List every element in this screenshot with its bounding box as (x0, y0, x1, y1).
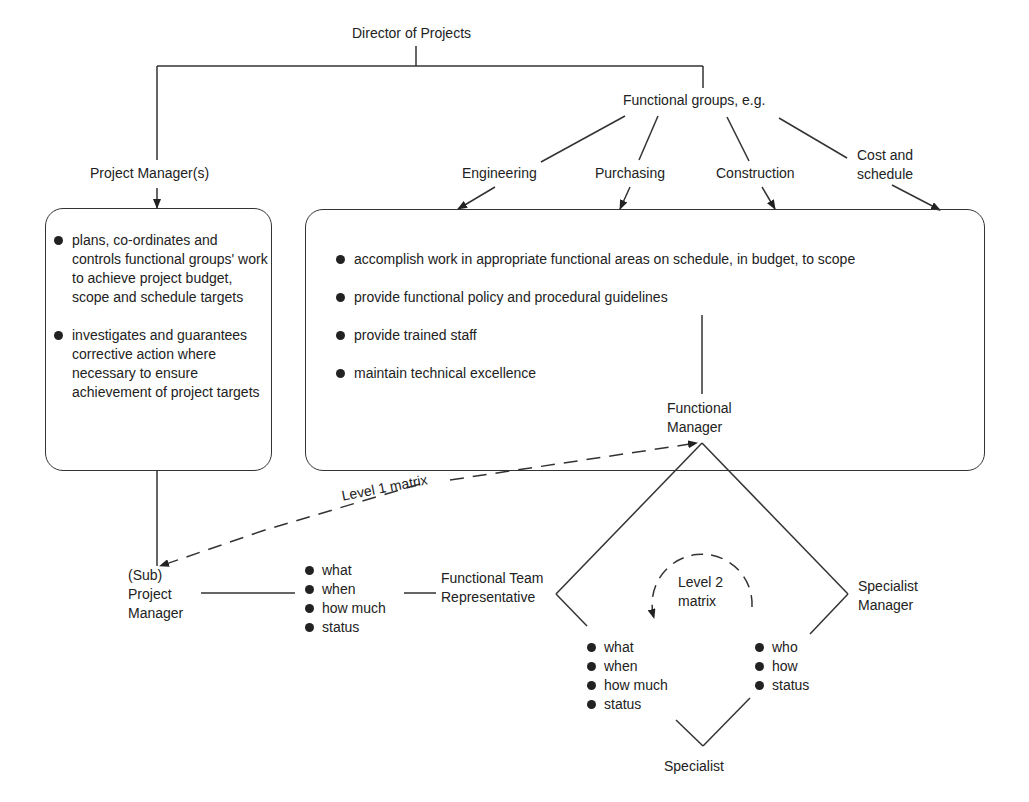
list-item: how much (303, 599, 386, 618)
list-item: how much (585, 676, 668, 695)
pm-to-rep-list: what when how much status (303, 561, 386, 637)
level-2-matrix-label-line2: matrix (678, 592, 716, 611)
specialist-manager-label: Specialist Manager (858, 577, 938, 615)
level-2-matrix-label-line1: Level 2 (678, 573, 723, 592)
fg-responsibility-item: provide functional policy and procedural… (334, 288, 855, 307)
specialist-label: Specialist (664, 757, 724, 776)
list-item: how (753, 657, 809, 676)
sub-project-manager-label: (Sub) Project Manager (128, 566, 198, 623)
project-managers-label: Project Manager(s) (90, 164, 209, 183)
spec-mgr-to-specialist-list: who how status (753, 638, 809, 695)
project-manager-responsibilities-box: plans, co-ordinates and controls functio… (45, 208, 272, 471)
group-purchasing: Purchasing (595, 164, 665, 183)
list-item: what (585, 638, 668, 657)
group-construction: Construction (716, 164, 795, 183)
rep-to-specialist-list: what when how much status (585, 638, 668, 714)
functional-groups-label: Functional groups, e.g. (623, 91, 765, 110)
list-item: who (753, 638, 809, 657)
list-item: when (303, 580, 386, 599)
fg-responsibility-item: provide trained staff (334, 326, 855, 345)
list-item: status (303, 618, 386, 637)
list-item: status (753, 676, 809, 695)
director-of-projects-label: Director of Projects (352, 24, 471, 43)
list-item: status (585, 695, 668, 714)
list-item: what (303, 561, 386, 580)
functional-manager-label: Functional Manager (667, 399, 747, 437)
functional-group-responsibilities-box: accomplish work in appropriate functiona… (305, 209, 985, 471)
group-cost-and-schedule: Cost and schedule (857, 146, 927, 184)
group-engineering: Engineering (462, 164, 537, 183)
functional-team-representative-label: Functional Team Representative (441, 569, 556, 607)
pm-responsibility-item: investigates and guarantees corrective a… (52, 326, 270, 402)
fg-responsibility-item: maintain technical excellence (334, 364, 855, 383)
fg-responsibility-item: accomplish work in appropriate functiona… (334, 250, 855, 269)
pm-responsibility-item: plans, co-ordinates and controls functio… (52, 231, 270, 307)
list-item: when (585, 657, 668, 676)
